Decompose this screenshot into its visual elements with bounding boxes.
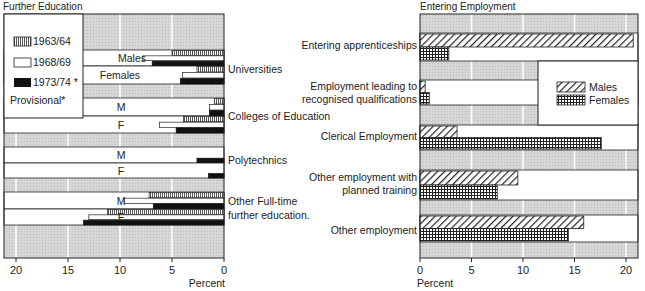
legend-label-1973-74: 1973/74 * — [33, 76, 78, 88]
left-row-background — [4, 147, 224, 163]
row-sex-label: F — [118, 211, 124, 223]
right-tick-label: 10 — [517, 264, 529, 276]
bar-1973-74 — [197, 158, 224, 163]
left-tick-label: 20 — [10, 264, 22, 276]
left-tick-label: 5 — [169, 264, 175, 276]
left-row-background — [4, 163, 224, 178]
category-label: recognised qualifications — [302, 93, 417, 105]
right-band — [420, 242, 638, 258]
bar-males — [420, 34, 633, 47]
legend-label-1963-64: 1963/64 — [33, 35, 71, 47]
category-label: further education. — [228, 209, 310, 221]
bar-females — [420, 229, 568, 242]
category-label: Employment leading to — [310, 80, 417, 92]
left-x-axis: 05101520 — [10, 258, 227, 276]
category-label: Universities — [228, 63, 282, 75]
legend-label-1968-69: 1968/69 — [33, 56, 71, 68]
right-legend-box — [538, 61, 638, 125]
bar-1963-64 — [172, 51, 224, 56]
bar-1968-69 — [209, 105, 224, 111]
row-sex-label: M — [117, 149, 126, 161]
left-chart-title: Further Education — [3, 1, 83, 12]
right-band — [420, 200, 638, 215]
bar-1968-69 — [182, 73, 224, 79]
bar-females — [420, 47, 449, 60]
right-band — [420, 14, 638, 33]
legend-swatch-females — [557, 95, 585, 105]
bar-1973-74 — [209, 111, 224, 117]
bar-1973-74 — [84, 220, 224, 225]
legend-swatch-1968-69 — [14, 58, 31, 67]
right-legend: Males Females — [538, 61, 638, 125]
legend-swatch-1963-64 — [14, 37, 31, 46]
row-sex-label: Females — [100, 69, 140, 81]
bar-males — [420, 216, 584, 229]
bar-1973-74 — [176, 128, 224, 133]
legend-provisional-note: Provisional* — [10, 94, 65, 106]
left-x-axis-label: Percent — [189, 277, 225, 289]
legend-label-males: Males — [589, 81, 617, 93]
bar-1973-74 — [153, 204, 224, 209]
right-chart-title: Entering Employment — [420, 1, 516, 12]
category-label: Other employment — [331, 224, 417, 236]
category-label: Clerical Employment — [321, 130, 417, 142]
left-band — [4, 225, 224, 258]
bar-males — [420, 126, 457, 138]
bar-1963-64 — [197, 67, 224, 73]
left-tick-label: 0 — [221, 264, 227, 276]
right-tick-label: 0 — [417, 264, 423, 276]
right-band — [420, 61, 538, 80]
right-category-labels: Entering apprenticeshipsEmployment leadi… — [301, 39, 417, 236]
row-sex-label: M — [117, 195, 126, 207]
category-label: Other employment with — [309, 171, 417, 183]
legend-label-females: Females — [589, 94, 629, 106]
bar-1963-64 — [149, 193, 224, 198]
bar-females — [420, 185, 497, 199]
bar-males — [420, 171, 518, 185]
legend-swatch-1973-74 — [14, 78, 31, 87]
right-band — [420, 150, 638, 170]
row-sex-label: Males — [118, 52, 146, 64]
category-label: planned training — [342, 184, 417, 196]
bar-females — [420, 138, 601, 150]
bar-1968-69 — [160, 122, 224, 127]
right-x-axis: 05101520 — [417, 258, 632, 276]
category-label: Entering apprenticeships — [301, 39, 417, 51]
right-tick-label: 20 — [620, 264, 632, 276]
bar-1973-74 — [152, 61, 224, 66]
category-label: Polytechnics — [228, 154, 287, 166]
bar-1963-64 — [108, 210, 224, 215]
category-label: Colleges of Education — [228, 110, 330, 122]
bar-1968-69 — [143, 56, 224, 61]
further-education-and-employment-chart: Further Education MalesFemalesMFMFMF 196… — [0, 0, 645, 291]
right-tick-label: 5 — [468, 264, 474, 276]
left-band — [4, 178, 224, 192]
legend-swatch-males — [557, 82, 585, 92]
row-sex-label: F — [118, 119, 124, 131]
left-tick-label: 15 — [62, 264, 74, 276]
bar-1963-64 — [215, 99, 224, 105]
right-band — [420, 105, 538, 125]
bar-1973-74 — [208, 174, 224, 179]
left-tick-label: 10 — [114, 264, 126, 276]
row-sex-label: F — [118, 165, 124, 177]
bar-1968-69 — [89, 215, 224, 220]
row-sex-label: M — [117, 101, 126, 113]
left-band — [4, 133, 224, 147]
category-label: Other Full-time — [228, 195, 298, 207]
bar-1968-69 — [124, 198, 224, 203]
left-legend: 1963/64 1968/69 1973/74 * Provisional* — [4, 14, 83, 118]
bar-males — [420, 81, 425, 93]
right-tick-label: 15 — [568, 264, 580, 276]
right-x-axis-label: Percent — [417, 277, 453, 289]
bar-1963-64 — [183, 117, 224, 122]
bar-females — [420, 93, 429, 105]
bar-1973-74 — [180, 79, 224, 85]
